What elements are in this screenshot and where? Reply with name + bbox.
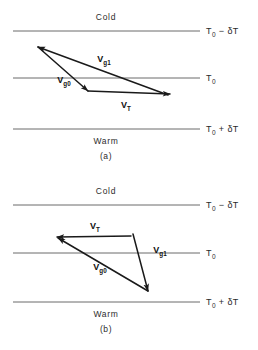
diagram-canvas: ColdT0 − δTT0T0 + δTWarm(a)Vg1Vg0VTColdT… — [0, 0, 258, 350]
vector-vt-label: VT — [121, 100, 131, 112]
cold-isotherm-label: T0 − δT — [206, 26, 239, 37]
vector-vg1 — [133, 234, 148, 291]
panel-a: ColdT0 − δTT0T0 + δTWarm(a)Vg1Vg0VT — [13, 12, 239, 161]
vector-vg0 — [58, 238, 148, 291]
cold-region-label: Cold — [96, 186, 116, 196]
panel-caption-b: (b) — [100, 324, 112, 334]
middle-isotherm-label: T0 — [206, 73, 216, 84]
warm-region-label: Warm — [93, 136, 118, 146]
vector-vg1-label: Vg1 — [153, 245, 167, 258]
cold-region-label: Cold — [96, 12, 116, 22]
warm-region-label: Warm — [93, 309, 118, 319]
warm-isotherm-label: T0 + δT — [206, 124, 239, 135]
middle-isotherm-label: T0 — [206, 248, 216, 259]
cold-isotherm-label: T0 − δT — [206, 200, 239, 211]
diagram-content: ColdT0 − δTT0T0 + δTWarm(a)Vg1Vg0VTColdT… — [13, 12, 239, 334]
vector-vg0-label: Vg0 — [93, 262, 107, 275]
panel-b: ColdT0 − δTT0T0 + δTWarm(b)VTVg1Vg0 — [13, 186, 239, 334]
panel-caption-a: (a) — [100, 151, 112, 161]
vector-vg0-label: Vg0 — [57, 75, 71, 88]
vector-vt — [57, 236, 131, 237]
warm-isotherm-label: T0 + δT — [206, 297, 239, 308]
vector-vg1-label: Vg1 — [97, 54, 111, 67]
vector-vt-label: VT — [90, 221, 100, 233]
vector-diagram-figure: ColdT0 − δTT0T0 + δTWarm(a)Vg1Vg0VTColdT… — [0, 0, 258, 350]
